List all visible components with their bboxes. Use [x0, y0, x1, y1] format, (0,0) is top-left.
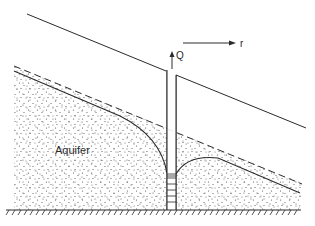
- aquifer-well-diagram: [0, 0, 315, 226]
- impermeable-base: [6, 210, 301, 215]
- well-casing: [167, 70, 176, 210]
- discharge-arrow-icon: [170, 51, 175, 69]
- radial-arrow-icon: [183, 41, 236, 46]
- aquifer-label: Aquifer: [55, 144, 90, 156]
- aquifer-sand: [14, 66, 302, 210]
- radial-direction-label: r: [240, 38, 243, 49]
- discharge-label: Q: [176, 50, 184, 61]
